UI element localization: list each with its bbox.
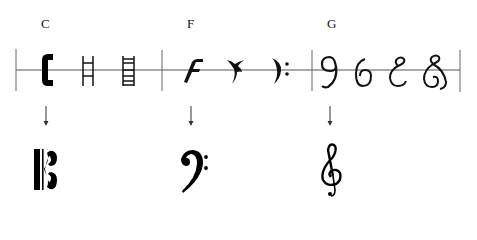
f-form-gothic-icon [184,59,203,83]
g-form-six-icon [356,59,371,86]
c-clef-modern-icon [34,149,57,190]
g-form-loop-icon [390,58,406,87]
c-form-ladder-many-rungs-icon [123,56,134,86]
f-clef-modern-icon [181,150,208,193]
arrow-down-f-icon [189,106,194,126]
c-form-ladder-two-rungs-icon [83,56,93,86]
g-form-loop-tail-icon [424,56,446,90]
arrow-down-g-icon [328,106,333,126]
g-form-nine-icon [322,57,336,87]
f-form-hooked-icon [227,60,244,84]
g-clef-modern-icon [322,145,340,196]
arrow-down-c-icon [44,106,49,126]
f-form-curved-dots-icon [272,58,289,84]
